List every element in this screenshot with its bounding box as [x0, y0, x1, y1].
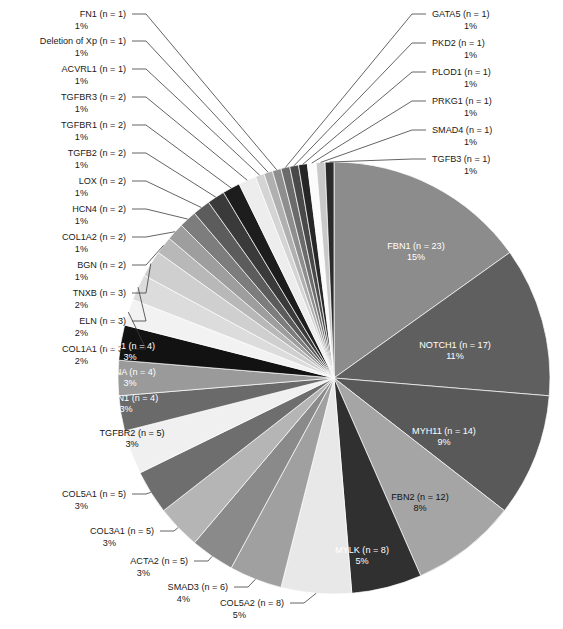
leader-line-tgfb3: [330, 159, 426, 162]
leader-line-smad3: [234, 579, 255, 587]
slice-label-prkg1: PRKG1 (n = 1)1%: [432, 96, 492, 118]
leader-line-hcn4: [132, 209, 188, 219]
slice-label-tgfbr3: TGFBR3 (n = 2)1%: [61, 92, 126, 114]
slice-label-pkd2: PKD2 (n = 1)1%: [432, 38, 485, 60]
leader-line-col3a1: [160, 528, 178, 531]
slice-label-bgn: BGN (n = 2)1%: [75, 260, 126, 282]
pie-chart-figure: GATA5 (n = 1)1%PKD2 (n = 1)1%PLOD1 (n = …: [0, 0, 563, 629]
leader-line-fn1: [132, 14, 277, 170]
slice-label-tnxb: TNXB (n = 3)2%: [73, 288, 126, 310]
leader-line-prkg1: [312, 101, 426, 163]
slice-label-acta2: ACTA2 (n = 5)3%: [130, 556, 188, 578]
slice-label-tgfbr1: TGFBR1 (n = 2)1%: [61, 120, 126, 142]
slice-label-deletion-of-xp: Deletion of Xp (n = 1)1%: [40, 36, 126, 58]
slice-label-plod1: PLOD1 (n = 1)1%: [432, 67, 491, 89]
leader-line-plod1: [303, 72, 426, 164]
leader-line-col1a2: [132, 232, 175, 237]
leader-line-lox: [132, 181, 201, 208]
slice-label-tgfb2: TGFB2 (n = 2)1%: [68, 148, 126, 170]
slice-label-col5a2: COL5A2 (n = 8)5%: [220, 598, 284, 620]
leader-line-tgfb2: [132, 153, 216, 197]
slice-label-acvrl1: ACVRL1 (n = 1)1%: [62, 64, 126, 86]
slice-label-tgfb3: TGFB3 (n = 1)1%: [432, 154, 490, 176]
slice-label-col5a1: COL5A1 (n = 5)3%: [62, 489, 126, 511]
leader-line-acvrl1: [132, 69, 260, 175]
leader-line-deletion-of-xp: [132, 41, 268, 172]
leader-line-smad4: [321, 130, 426, 162]
pie-slices: [118, 162, 550, 594]
slice-label-hcn4: HCN4 (n = 2)1%: [72, 204, 126, 226]
pie-chart-svg: GATA5 (n = 1)1%PKD2 (n = 1)1%PLOD1 (n = …: [0, 0, 563, 629]
leader-line-col5a2: [290, 593, 316, 603]
slice-label-smad4: SMAD4 (n = 1)1%: [432, 125, 492, 147]
slice-label-eln: ELN (n = 3)2%: [75, 316, 126, 338]
slice-label-lox: LOX (n = 2)1%: [75, 176, 126, 198]
slice-label-col3a1: COL3A1 (n = 5)3%: [90, 526, 154, 548]
leader-line-gata5: [285, 14, 426, 168]
slice-label-col1a2: COL1A2 (n = 2)1%: [62, 232, 126, 254]
leader-line-acta2: [194, 556, 212, 561]
slice-label-fn1: FN1 (n = 1)1%: [75, 9, 126, 31]
slice-label-smad3: SMAD3 (n = 6)4%: [168, 582, 228, 604]
slice-label-gata5: GATA5 (n = 1)1%: [432, 9, 490, 31]
leader-line-col5a1: [132, 492, 151, 494]
